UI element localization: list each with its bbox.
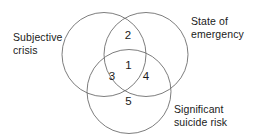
set-label-state-of-emergency: State of emergency <box>191 15 244 41</box>
region-number-3: 3 <box>109 71 116 83</box>
venn-diagram-figure: 2 1 3 4 5 Subjective crisis State of eme… <box>0 0 265 139</box>
region-number-1: 1 <box>125 60 132 72</box>
region-number-4: 4 <box>143 71 150 83</box>
region-number-2: 2 <box>125 30 132 42</box>
set-label-subjective-crisis: Subjective crisis <box>13 31 62 57</box>
region-number-5: 5 <box>125 96 132 108</box>
set-label-significant-suicide-risk: Significant suicide risk <box>174 103 227 129</box>
